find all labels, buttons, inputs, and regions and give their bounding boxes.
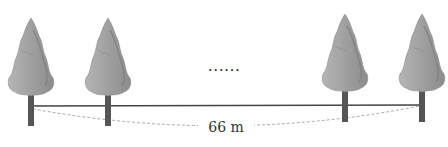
tree-1-icon — [8, 18, 54, 126]
tree-4-icon — [399, 14, 445, 122]
ellipsis: ...... — [208, 58, 241, 74]
distance-label: 66 m — [198, 119, 254, 135]
ground-line — [28, 105, 425, 106]
tree-2-icon — [85, 18, 131, 126]
